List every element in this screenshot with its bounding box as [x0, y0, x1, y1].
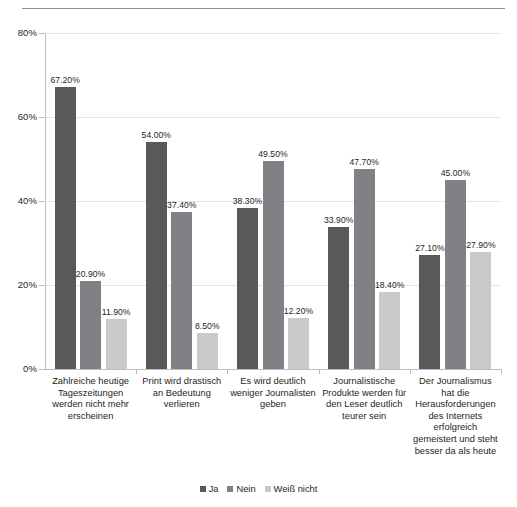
bar — [106, 319, 127, 369]
bar — [470, 252, 491, 369]
chart-figure: 67.20%20.90%11.90%54.00%37.40%8.50%38.30… — [0, 0, 517, 507]
bar — [354, 169, 375, 369]
x-category-label: Der Journalismus hat die Herausforderung… — [412, 376, 499, 457]
y-tick-label: 60% — [0, 111, 37, 122]
plot-area: 67.20%20.90%11.90%54.00%37.40%8.50%38.30… — [45, 33, 501, 369]
bar — [419, 255, 440, 369]
y-tick-label: 40% — [0, 195, 37, 206]
legend-swatch-icon — [265, 486, 271, 492]
y-tick-mark — [39, 33, 45, 34]
bar — [288, 318, 309, 369]
x-tick-mark — [319, 369, 320, 374]
bar-value-label: 8.50% — [183, 321, 231, 331]
bar — [197, 333, 218, 369]
bar-value-label: 12.20% — [275, 306, 323, 316]
bar-value-label: 27.10% — [406, 243, 454, 253]
x-category-label: Es wird deutlich weniger Journalisten ge… — [229, 376, 316, 411]
gridline — [45, 117, 501, 118]
bar — [237, 208, 258, 369]
x-tick-mark — [501, 369, 502, 374]
legend-item-label: Nein — [236, 484, 255, 494]
y-tick-label: 0% — [0, 363, 37, 374]
bar — [80, 281, 101, 369]
gridline — [45, 33, 501, 34]
legend-item: Ja — [200, 484, 219, 494]
x-axis-line — [45, 369, 502, 370]
bar — [171, 212, 192, 369]
y-tick-label: 80% — [0, 27, 37, 38]
x-tick-mark — [227, 369, 228, 374]
bar — [445, 180, 466, 369]
bar — [379, 292, 400, 369]
bar-value-label: 11.90% — [92, 307, 140, 317]
x-category-label: Zahlreiche heutige Tageszeitungen werden… — [47, 376, 134, 422]
bar-value-label: 38.30% — [224, 196, 272, 206]
legend-swatch-icon — [200, 486, 206, 492]
bar — [55, 87, 76, 369]
x-tick-mark — [136, 369, 137, 374]
bar-value-label: 45.00% — [431, 168, 479, 178]
bar-value-label: 20.90% — [67, 269, 115, 279]
bar-value-label: 33.90% — [315, 215, 363, 225]
y-tick-mark — [39, 369, 45, 370]
legend-item-label: Weiß nicht — [274, 484, 318, 494]
x-category-label: Journalistische Produkte werden für den … — [321, 376, 408, 422]
legend-swatch-icon — [227, 486, 233, 492]
y-tick-label: 20% — [0, 279, 37, 290]
bar — [263, 161, 284, 369]
bar — [146, 142, 167, 369]
bar-value-label: 47.70% — [340, 157, 388, 167]
bar-value-label: 37.40% — [158, 200, 206, 210]
chart-legend: JaNeinWeiß nicht — [0, 484, 517, 494]
x-tick-mark — [410, 369, 411, 374]
top-divider-rule — [22, 8, 505, 9]
y-tick-mark — [39, 285, 45, 286]
x-category-label: Print wird drastisch an Bedeutung verlie… — [138, 376, 225, 411]
bar-value-label: 54.00% — [132, 130, 180, 140]
bar-value-label: 18.40% — [366, 280, 414, 290]
legend-item: Weiß nicht — [265, 484, 318, 494]
y-tick-mark — [39, 117, 45, 118]
legend-item: Nein — [227, 484, 255, 494]
legend-item-label: Ja — [209, 484, 219, 494]
bar — [328, 227, 349, 369]
bar-value-label: 67.20% — [41, 75, 89, 85]
bar-value-label: 27.90% — [457, 240, 505, 250]
y-tick-mark — [39, 201, 45, 202]
bar-value-label: 49.50% — [249, 149, 297, 159]
